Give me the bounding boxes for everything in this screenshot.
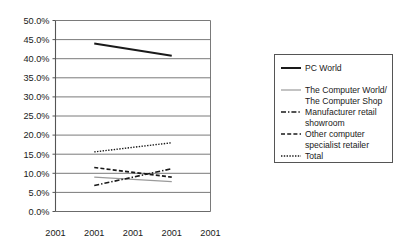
x-axis-tick-label: 2001 [45,228,65,238]
y-axis-tick-label: 45.0% [23,35,49,45]
legend-entry-label-line2: showroom [305,118,345,128]
legend-entry-label-line2: specialist retailer [305,140,369,150]
y-axis-tick-label: 10.0% [23,169,49,179]
legend-entry-label: The Computer World/ [305,85,388,95]
legend-entry-label-line2: The Computer Shop [305,96,383,106]
y-axis-tick-label: 15.0% [23,150,49,160]
y-axis-tick-label: 5.0% [29,188,50,198]
line-chart: 50.0%45.0%40.0%35.0%30.0%25.0%20.0%15.0%… [0,0,405,249]
legend-entry-label: Total [305,151,323,161]
legend-entry-label: Manufacturer retail [305,107,377,117]
x-axis-tick-label: 2001 [162,228,182,238]
y-axis-tick-label: 40.0% [23,54,49,64]
legend-entry-label: Other computer [305,129,365,139]
chart-canvas: 50.0%45.0%40.0%35.0%30.0%25.0%20.0%15.0%… [0,0,405,249]
legend-entry-label: PC World [305,63,342,73]
y-axis-tick-label: 0.0% [29,207,50,217]
x-axis-tick-label: 2001 [123,228,143,238]
y-axis-tick-label: 20.0% [23,130,49,140]
y-axis-tick-label: 30.0% [23,92,49,102]
chart-legend: PC WorldThe Computer World/The Computer … [275,55,393,163]
y-axis-tick-label: 50.0% [23,16,49,26]
x-axis-tick-label: 2001 [200,228,220,238]
x-axis-tick-label: 2001 [84,228,104,238]
y-axis-tick-label: 35.0% [23,73,49,83]
y-axis-tick-label: 25.0% [23,111,49,121]
